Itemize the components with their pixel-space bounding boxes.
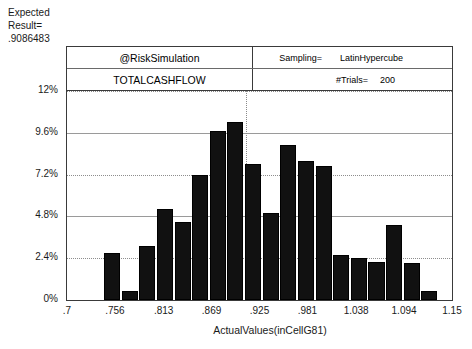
trials-value: 200 bbox=[368, 75, 426, 85]
histogram-bar bbox=[192, 175, 208, 300]
trials-cell: #Trials= 200 bbox=[253, 69, 452, 91]
histogram-bar bbox=[104, 253, 120, 300]
histogram-bars bbox=[67, 91, 452, 300]
chart-frame: @RiskSimulation Sampling= LatinHypercube… bbox=[66, 46, 453, 301]
histogram-bar bbox=[280, 145, 296, 300]
histogram-bar bbox=[351, 258, 367, 300]
sampling-key: Sampling= bbox=[279, 53, 322, 63]
chart-header-table: @RiskSimulation Sampling= LatinHypercube… bbox=[67, 47, 452, 91]
histogram-bar bbox=[404, 263, 420, 300]
histogram-bar bbox=[122, 291, 138, 300]
x-axis-tick-label: .925 bbox=[250, 305, 269, 317]
histogram-bar bbox=[316, 166, 332, 300]
y-axis-tick-label: 4.8% bbox=[35, 210, 58, 220]
y-axis-tick-label: 0% bbox=[44, 294, 58, 304]
plot-area bbox=[67, 91, 452, 300]
histogram-bar bbox=[227, 122, 243, 300]
x-axis-tick-label: 1.15 bbox=[442, 305, 461, 317]
x-axis-labels: .7.756.813.869.925.9811.0381.0941.15 bbox=[0, 305, 472, 321]
histogram-bar bbox=[298, 161, 314, 300]
histogram-bar bbox=[245, 164, 261, 300]
trials-key: #Trials= bbox=[336, 75, 368, 85]
y-axis-tick-label: 2.4% bbox=[35, 252, 58, 262]
x-axis-tick-label: 1.038 bbox=[344, 305, 369, 317]
histogram-bar bbox=[157, 209, 173, 300]
y-axis-tick-label: 7.2% bbox=[35, 169, 58, 179]
y-axis-tick-label: 12% bbox=[38, 85, 58, 95]
histogram-bar bbox=[139, 246, 155, 300]
x-axis-tick-label: 1.094 bbox=[392, 305, 417, 317]
x-axis-tick-label: .813 bbox=[154, 305, 173, 317]
y-axis-tick-label: 9.6% bbox=[35, 127, 58, 137]
x-axis-tick-label: .869 bbox=[202, 305, 221, 317]
variable-name: TOTALCASHFLOW bbox=[67, 69, 253, 91]
histogram-bar bbox=[333, 255, 349, 300]
x-axis-tick-label: .981 bbox=[298, 305, 317, 317]
histogram-bar bbox=[368, 262, 384, 300]
histogram-bar bbox=[386, 225, 402, 300]
histogram-bar bbox=[263, 213, 279, 300]
histogram-bar bbox=[175, 222, 191, 300]
header-row-top: @RiskSimulation Sampling= LatinHypercube bbox=[67, 47, 452, 69]
y-axis-labels: 0%2.4%4.8%7.2%9.6%12% bbox=[0, 0, 62, 349]
sampling-cell: Sampling= LatinHypercube bbox=[253, 47, 452, 68]
header-row-bottom: TOTALCASHFLOW #Trials= 200 bbox=[67, 69, 452, 91]
simulation-title: @RiskSimulation bbox=[67, 47, 253, 68]
histogram-bar bbox=[421, 291, 437, 300]
histogram-bar bbox=[210, 131, 226, 300]
x-axis-tick-label: .7 bbox=[63, 305, 71, 317]
x-axis-tick-label: .756 bbox=[105, 305, 124, 317]
x-axis-title: ActualValues(inCellG81) bbox=[0, 324, 472, 336]
sampling-value: LatinHypercube bbox=[322, 53, 426, 63]
